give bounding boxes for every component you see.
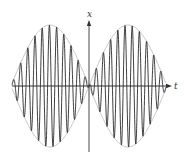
t-axis-arrow-icon [166,84,172,88]
t-axis-label: t [174,81,178,91]
axes [12,20,172,152]
beat-diagram: x t [0,0,184,161]
x-axis-arrow-icon [87,20,91,26]
x-axis-label: x [87,9,92,19]
